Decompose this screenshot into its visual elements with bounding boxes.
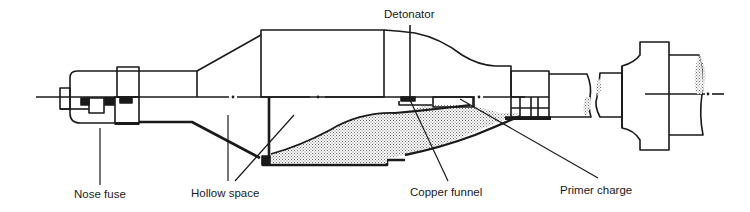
nose-fuse	[60, 67, 197, 125]
rear-section	[505, 71, 591, 120]
label-hollow-space: Hollow space	[191, 188, 259, 200]
base-section	[596, 42, 705, 150]
shaped-charge-diagram	[0, 0, 750, 212]
label-primer-charge: Primer charge	[560, 185, 632, 197]
label-nose-fuse: Nose fuse	[74, 189, 126, 201]
detonator-assembly	[399, 25, 474, 107]
label-detonator: Detonator	[384, 9, 435, 21]
label-copper-funnel: Copper funnel	[410, 187, 482, 199]
